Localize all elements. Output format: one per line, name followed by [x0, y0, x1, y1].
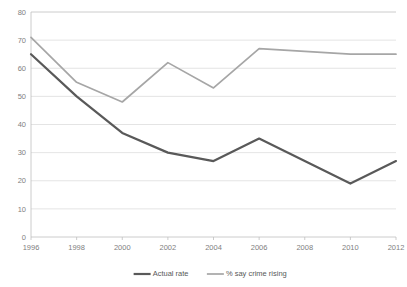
x-tick-label: 2010: [342, 243, 359, 252]
series-lines: [31, 37, 396, 183]
y-tick-labels: 01020304050607080: [18, 8, 26, 242]
series-line-0: [31, 54, 396, 183]
chart-canvas: 01020304050607080 1996199820002002200420…: [0, 0, 407, 287]
y-tick-label: 40: [18, 120, 26, 129]
x-tick-label: 1996: [23, 243, 40, 252]
x-tick-label: 2000: [114, 243, 131, 252]
x-tick-label: 1998: [68, 243, 85, 252]
x-tick-labels: 199619982000200220042006200820102012: [23, 243, 405, 252]
legend-label-0: Actual rate: [153, 269, 189, 278]
y-tick-label: 50: [18, 92, 26, 101]
x-tick-label: 2012: [388, 243, 405, 252]
gridlines: [31, 40, 396, 209]
line-chart: 01020304050607080 1996199820002002200420…: [0, 0, 407, 287]
y-tick-label: 80: [18, 8, 26, 17]
series-line-1: [31, 37, 396, 102]
legend-label-1: % say crime rising: [226, 269, 287, 278]
x-tick-label: 2002: [160, 243, 177, 252]
y-tick-label: 60: [18, 64, 26, 73]
x-tick-label: 2008: [296, 243, 313, 252]
y-tick-label: 70: [18, 36, 26, 45]
y-tick-label: 10: [18, 205, 26, 214]
y-tick-label: 0: [22, 233, 26, 242]
x-tickmarks: [31, 237, 396, 240]
x-tick-label: 2004: [205, 243, 222, 252]
y-tick-label: 30: [18, 148, 26, 157]
x-tick-label: 2006: [251, 243, 268, 252]
chart-legend: Actual rate% say crime rising: [134, 269, 287, 278]
y-tick-label: 20: [18, 176, 26, 185]
